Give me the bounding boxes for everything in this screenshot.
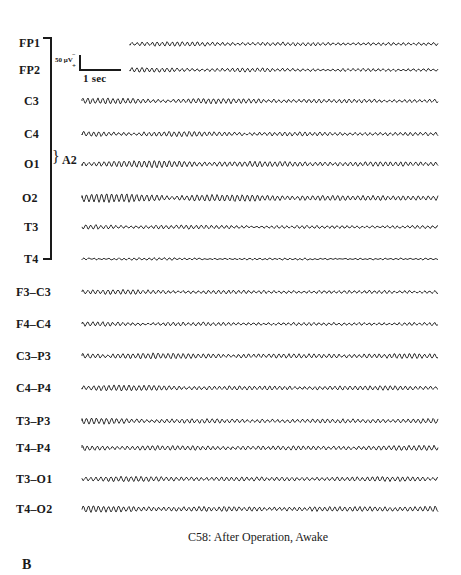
eeg-traces [0, 0, 461, 575]
figure-caption: C58: After Operation, Awake [188, 530, 328, 545]
panel-letter: B [22, 557, 31, 573]
trace-t3 [82, 225, 438, 230]
trace-fp1 [130, 42, 438, 47]
trace-t4 [82, 258, 438, 261]
trace-c3 [82, 98, 438, 104]
trace-f4-c4 [82, 322, 438, 327]
trace-fp2 [130, 67, 438, 72]
trace-t4-p4 [82, 445, 438, 450]
trace-c4-p4 [82, 385, 438, 391]
trace-c4 [82, 131, 438, 136]
trace-c3-p3 [82, 353, 438, 359]
trace-o1 [82, 161, 438, 168]
trace-t4-o2 [82, 506, 438, 512]
trace-f3-c3 [82, 289, 438, 294]
trace-t3-p3 [82, 418, 438, 424]
trace-t3-o1 [82, 476, 438, 481]
trace-o2 [82, 194, 438, 203]
